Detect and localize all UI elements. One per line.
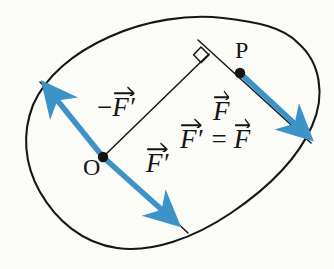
ellipse-force-vector-diagram: −F′ F′ F F′=F O P (0, 0, 334, 269)
label-f-prime-lower: F′ (146, 148, 168, 177)
diagram-canvas (0, 0, 334, 269)
prime-mark: ′ (163, 148, 169, 178)
minus-sign: − (97, 92, 112, 122)
letter-f: F (213, 98, 230, 125)
label-point-o: O (83, 155, 100, 179)
vector-f-at-p (240, 73, 295, 124)
right-angle-marker (194, 47, 209, 63)
prime-mark: ′ (129, 92, 135, 122)
label-f-at-p: F (213, 96, 230, 125)
vector-notation-f: F (234, 124, 251, 153)
letter-f: F (180, 126, 197, 153)
letter-f: F (112, 94, 129, 121)
vector-notation-f-prime: F′ (112, 92, 134, 121)
point-p-dot (235, 68, 245, 78)
letter-f: F (146, 150, 163, 177)
label-point-p: P (235, 38, 248, 62)
prime-mark: ′ (197, 124, 203, 154)
vector-notation-f-prime: F′ (180, 124, 202, 153)
rigid-body-outline (26, 17, 319, 249)
letter-f: F (234, 126, 251, 153)
equals-operator: = (202, 124, 233, 154)
label-minus-f-prime: −F′ (97, 92, 135, 121)
label-equation-f-prime-equals-f: F′=F (180, 124, 250, 153)
vector-notation-f-prime: F′ (146, 148, 168, 177)
line-of-action-extension-upper (40, 82, 58, 100)
vector-notation-f: F (213, 96, 230, 125)
